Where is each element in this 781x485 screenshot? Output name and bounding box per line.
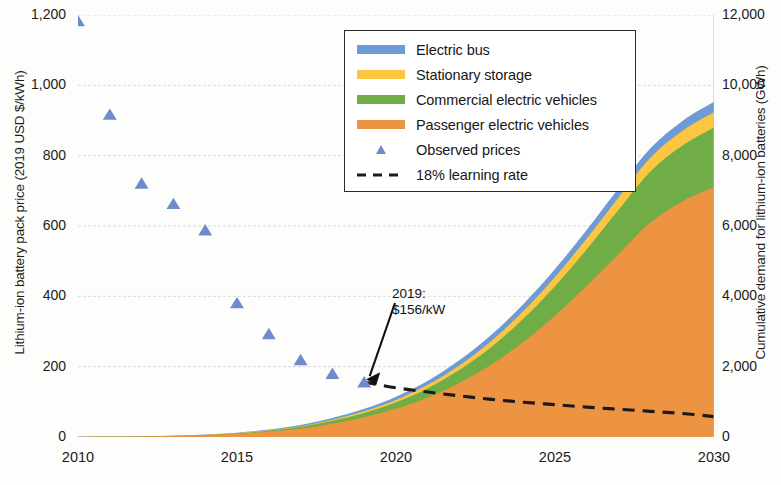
y-axis-left-tick: 1,200 [8,6,66,22]
y-axis-left-tick: 0 [8,428,66,444]
y-axis-right-title: Cumulative demand for lithium-ion batter… [753,43,768,383]
legend-item-label: 18% learning rate [416,167,528,183]
y-axis-left-tick: 1,000 [8,76,66,92]
legend-item-label: Passenger electric vehicles [416,117,589,133]
observed-price-marker [294,354,308,365]
legend-item-label: Stationary storage [416,67,532,83]
triangle-marker-icon [357,144,405,156]
legend-item-electric-bus[interactable]: Electric bus [345,37,635,62]
legend-item-label: Observed prices [416,142,520,158]
chart-legend: Electric busStationary storageCommercial… [344,30,636,192]
x-axis-tick: 2030 [679,449,749,465]
observed-price-marker [230,297,244,308]
legend-item-observed-prices[interactable]: Observed prices [345,137,635,162]
y-axis-left-tick: 600 [8,217,66,233]
legend-item-18-learning-rate[interactable]: 18% learning rate [345,162,635,187]
legend-item-label: Commercial electric vehicles [416,92,597,108]
observed-price-marker [135,177,149,188]
annotation-line-2: $156/kW [392,302,445,318]
legend-item-label: Electric bus [416,42,490,58]
legend-item-commercial-electric-vehicles[interactable]: Commercial electric vehicles [345,87,635,112]
legend-color-swatch [357,45,405,54]
y-axis-right-tick: 10,000 [722,76,781,92]
observed-price-marker [78,15,85,26]
x-axis-tick: 2010 [43,449,113,465]
legend-color-swatch [357,70,405,79]
chart-container: Lithium-ion battery pack price (2019 USD… [0,0,781,485]
y-axis-left-tick: 200 [8,358,66,374]
observed-price-marker [103,108,117,119]
triangle-glyph [376,145,386,154]
observed-price-marker [262,328,276,339]
legend-color-swatch [357,95,405,104]
y-axis-right-tick: 4,000 [722,287,781,303]
y-axis-right-tick: 2,000 [722,358,781,374]
legend-item-stationary-storage[interactable]: Stationary storage [345,62,635,87]
y-axis-right-tick: 8,000 [722,147,781,163]
y-axis-left-title: Lithium-ion battery pack price (2019 USD… [12,43,27,383]
x-axis-tick: 2025 [520,449,590,465]
observed-price-marker [325,368,339,379]
legend-item-passenger-electric-vehicles[interactable]: Passenger electric vehicles [345,112,635,137]
legend-color-swatch [357,120,405,129]
dashed-line-icon [357,169,405,181]
x-axis-tick: 2020 [361,449,431,465]
annotation-line-1: 2019: [392,286,445,302]
y-axis-right-tick: 0 [722,428,781,444]
y-axis-right-tick: 6,000 [722,217,781,233]
y-axis-right-tick: 12,000 [722,6,781,22]
y-axis-left-tick: 400 [8,287,66,303]
observed-price-marker [166,198,180,209]
annotation-2019-price: 2019: $156/kW [392,286,445,318]
x-axis-tick: 2015 [202,449,272,465]
y-axis-left-tick: 800 [8,147,66,163]
